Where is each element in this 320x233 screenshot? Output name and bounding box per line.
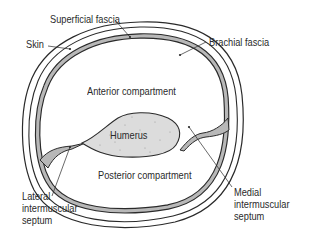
label-superficial-fascia: Superficial fascia bbox=[50, 13, 120, 25]
label-humerus: Humerus bbox=[110, 129, 147, 141]
label-posterior-compartment: Posterior compartment bbox=[98, 169, 191, 181]
label-medial-septum: Medial intermuscular septum bbox=[234, 186, 289, 222]
label-anterior-compartment: Anterior compartment bbox=[87, 85, 176, 97]
label-skin: Skin bbox=[26, 38, 44, 50]
lateral-septum bbox=[40, 143, 85, 168]
label-brachial-fascia: Brachial fascia bbox=[209, 36, 269, 48]
label-lateral-septum: Lateral intermuscular septum bbox=[22, 190, 77, 226]
